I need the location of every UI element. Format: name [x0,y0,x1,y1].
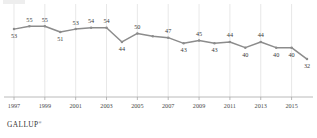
x-axis-tick-label: 2003 [100,102,112,109]
data-point-marker [259,41,262,44]
data-value-label: 47 [165,27,171,34]
data-value-label: 53 [11,32,17,39]
data-point-marker [290,46,293,49]
data-value-label: 55 [42,16,48,23]
chart-plot-area: 53555551535454445047434543444044404032 1… [0,0,317,118]
data-point-marker [121,41,124,44]
data-point-marker [198,39,201,42]
data-value-label: 53 [73,19,79,26]
data-value-label: 40 [273,51,279,58]
data-point-marker [275,46,278,49]
x-axis-group [4,97,313,100]
data-point-marker [136,32,139,35]
registered-mark: ® [39,120,42,125]
x-axis-tick-label: 2007 [162,102,174,109]
data-point-marker [152,35,155,38]
x-axis-tick-label: 1997 [8,102,20,109]
data-value-label: 44 [119,45,125,52]
data-point-marker [28,25,31,28]
data-value-label: 40 [242,51,248,58]
data-point-marker [229,41,232,44]
data-value-label: 55 [26,16,32,23]
data-value-label: 54 [103,17,109,24]
data-point-marker [74,28,77,31]
data-point-marker [244,46,247,49]
cropped-text-fragment [3,0,25,4]
data-point-marker [90,26,93,29]
x-axis-tick-label: 2009 [193,102,205,109]
data-value-label: 44 [227,31,233,38]
x-axis-tick-label: 2015 [285,102,297,109]
data-value-label: 54 [88,17,94,24]
data-value-label: 44 [258,31,264,38]
data-value-label: 43 [211,46,217,53]
x-axis-tick-label: 2001 [69,102,81,109]
x-axis-tick-label: 2013 [255,102,267,109]
gallup-wordmark: GALLUP [7,120,39,129]
data-point-marker [44,25,47,28]
data-point-marker [167,36,170,39]
data-point-marker [182,42,185,45]
data-point-marker [105,26,108,29]
gallup-line-chart: 53555551535454445047434543444044404032 1… [0,0,317,138]
data-value-label: 45 [196,30,202,37]
data-point-marker [59,31,62,34]
data-point-marker [213,42,216,45]
data-point-marker [306,58,309,61]
x-axis-tick-label: 1999 [39,102,51,109]
data-value-label: 50 [134,23,140,30]
data-value-label: 43 [181,46,187,53]
data-value-label: 51 [57,35,63,42]
gridlines-group [14,4,292,97]
gallup-logo: GALLUP® [7,120,42,129]
data-value-label: 32 [304,62,310,69]
data-value-labels-group: 53555551535454445047434543444044404032 [11,16,310,69]
x-axis-tick-label: 2005 [131,102,143,109]
data-point-marker [13,28,16,31]
x-axis-tick-label: 2011 [224,102,236,109]
x-axis-tick-labels-group: 1997199920012003200520072009201120132015 [8,102,298,109]
data-value-label: 40 [288,51,294,58]
